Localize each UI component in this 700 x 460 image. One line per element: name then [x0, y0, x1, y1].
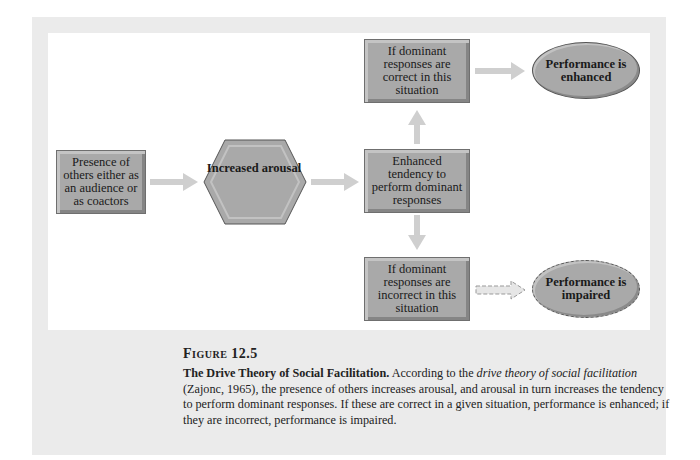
- node-presence-label: Presence of others either as an audience…: [57, 156, 145, 208]
- caption-title: The Drive Theory of Social Facilitation.: [183, 366, 389, 380]
- arrow-tendency-to-incorrect: [408, 215, 426, 250]
- node-correct-label: If dominant responses are correct in thi…: [365, 45, 469, 97]
- node-incorrect: If dominant responses are incorrect in t…: [364, 257, 470, 321]
- arrow-presence-to-arousal: [150, 173, 198, 191]
- arrow-tendency-to-correct: [408, 110, 426, 144]
- caption-text-2: (Zajonc, 1965), the presence of others i…: [183, 382, 669, 427]
- caption-italic-term: drive theory of social facilitation: [477, 366, 637, 380]
- figure-label: Figure 12.5: [183, 346, 673, 362]
- node-arousal-hexagon: [204, 140, 306, 224]
- caption-text-1: According to the: [389, 366, 476, 380]
- node-correct: If dominant responses are correct in thi…: [364, 39, 470, 103]
- caption-text: The Drive Theory of Social Facilitation.…: [183, 366, 673, 428]
- node-enhanced: Performance is enhanced: [532, 42, 640, 99]
- figure-caption: Figure 12.5 The Drive Theory of Social F…: [183, 346, 673, 428]
- node-enhanced-label: Performance is enhanced: [533, 58, 639, 84]
- arrow-correct-to-enhanced: [475, 62, 525, 80]
- node-impaired-label: Performance is impaired: [533, 276, 639, 302]
- node-tendency: Enhanced tendency to perform dominant re…: [364, 149, 470, 213]
- arrow-incorrect-to-impaired: [476, 281, 525, 299]
- node-arousal-label: Increased arousal: [205, 162, 303, 175]
- node-impaired: Performance is impaired: [532, 260, 640, 318]
- node-incorrect-label: If dominant responses are incorrect in t…: [365, 263, 469, 315]
- node-presence: Presence of others either as an audience…: [56, 150, 146, 214]
- arrow-arousal-to-tendency: [311, 173, 359, 191]
- node-tendency-label: Enhanced tendency to perform dominant re…: [365, 155, 469, 207]
